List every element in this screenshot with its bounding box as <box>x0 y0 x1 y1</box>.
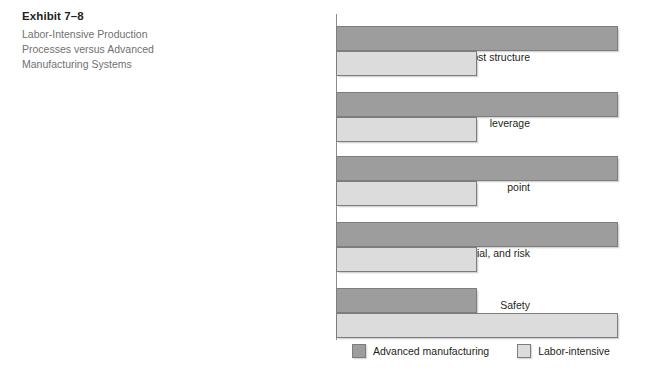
chart-legend: Advanced manufacturing Labor-intensive <box>352 344 610 358</box>
legend-label: Labor-intensive <box>538 345 610 357</box>
bar-labor-intensive[interactable] <box>336 181 477 206</box>
bar-labor-intensive[interactable] <box>336 313 618 338</box>
legend-item-labor-intensive[interactable]: Labor-intensive <box>517 344 610 358</box>
legend-swatch-icon <box>352 344 366 358</box>
bar-labor-intensive[interactable] <box>336 117 477 142</box>
bar-labor-intensive[interactable] <box>336 51 477 76</box>
bar-advanced-manufacturing[interactable] <box>336 222 618 247</box>
bar-advanced-manufacturing[interactable] <box>336 92 618 117</box>
bar-advanced-manufacturing[interactable] <box>336 156 618 181</box>
legend-label: Advanced manufacturing <box>373 345 489 357</box>
bar-chart: Proportion of fixed costs in cost struct… <box>0 0 645 376</box>
bar-advanced-manufacturing[interactable] <box>336 288 477 313</box>
bar-labor-intensive[interactable] <box>336 247 477 272</box>
bar-advanced-manufacturing[interactable] <box>336 26 618 51</box>
legend-swatch-icon <box>517 344 531 358</box>
legend-item-advanced-manufacturing[interactable]: Advanced manufacturing <box>352 344 489 358</box>
